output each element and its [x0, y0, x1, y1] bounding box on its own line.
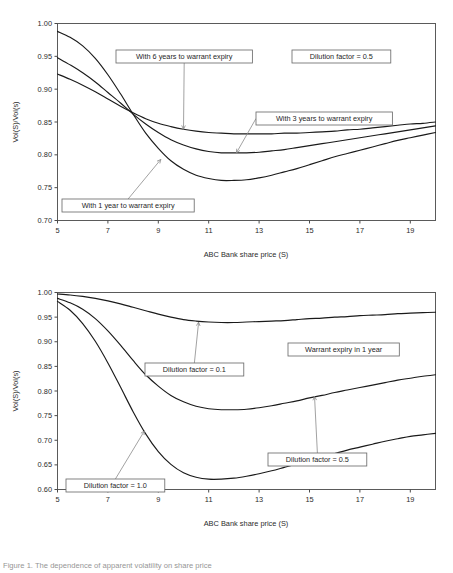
x-tick-label: 5	[55, 495, 59, 504]
series-line	[58, 294, 436, 323]
chart-bottom: 0.600.650.700.750.800.850.900.951.00 579…	[0, 284, 453, 550]
curves-bottom	[58, 294, 436, 479]
x-tick-label: 17	[356, 495, 364, 504]
annotation-box: Dilution factor = 0.5	[292, 50, 391, 63]
x-axis-ticks-top: 5791113151719	[55, 221, 414, 236]
annotations-top: With 6 years to warrant expiryDilution f…	[62, 50, 392, 212]
annotation-label: With 1 year to warrant expiry	[82, 201, 175, 210]
annotation-label: With 6 years to warrant expiry	[136, 52, 233, 61]
y-tick-label: 0.75	[38, 183, 52, 192]
y-tick-label: 1.00	[38, 19, 52, 28]
annotation-box: With 6 years to warrant expiry	[116, 50, 252, 63]
x-tick-label: 7	[106, 495, 110, 504]
annotation-label: Warrant expiry in 1 year	[305, 345, 383, 354]
y-tick-label: 0.85	[38, 118, 52, 127]
annotation-leader-line	[184, 63, 185, 129]
y-axis-ticks-top: 0.700.750.800.850.900.951.00	[38, 19, 58, 225]
y-tick-label: 0.85	[38, 362, 52, 371]
x-tick-label: 11	[205, 495, 213, 504]
x-tick-label: 13	[255, 226, 263, 235]
x-tick-label: 15	[305, 495, 313, 504]
x-tick-label: 11	[205, 226, 213, 235]
x-tick-label: 9	[156, 495, 160, 504]
y-tick-label: 0.70	[38, 436, 52, 445]
y-axis-title-bottom: Vol(S)/Vol(s)	[11, 370, 20, 411]
x-axis-title-top: ABC Bank share price (S)	[204, 250, 289, 259]
x-tick-label: 19	[406, 495, 414, 504]
annotation-label: With 3 years to warrant expiry	[276, 114, 373, 123]
figure-container: 0.700.750.800.850.900.951.00 57911131517…	[0, 0, 453, 573]
y-tick-label: 0.65	[38, 460, 52, 469]
y-axis-ticks-bottom: 0.600.650.700.750.800.850.900.951.00	[38, 288, 58, 494]
y-tick-label: 0.95	[38, 313, 52, 322]
annotation-label: Dilution factor = 0.1	[163, 365, 226, 374]
annotation-leader-line	[115, 431, 144, 479]
y-tick-label: 0.80	[38, 387, 52, 396]
y-axis-title-top: Vol(S)/Vol(s)	[11, 101, 20, 142]
annotation-box: Dilution factor = 0.1	[145, 363, 244, 376]
annotation-box: Dilution factor = 0.5	[268, 453, 367, 466]
chart-top-svg: 0.700.750.800.850.900.951.00 57911131517…	[0, 4, 453, 266]
x-tick-label: 17	[356, 226, 364, 235]
x-tick-label: 13	[255, 495, 263, 504]
x-tick-label: 19	[406, 226, 414, 235]
annotations-bottom: Dilution factor = 0.1Warrant expiry in 1…	[66, 343, 399, 492]
y-tick-label: 0.90	[38, 85, 52, 94]
chart-bottom-svg: 0.600.650.700.750.800.850.900.951.00 579…	[0, 284, 453, 550]
annotation-label: Dilution factor = 0.5	[310, 52, 373, 61]
y-tick-label: 1.00	[38, 288, 52, 297]
figure-caption: Figure 1. The dependence of apparent vol…	[3, 560, 450, 572]
x-tick-label: 15	[305, 226, 313, 235]
x-tick-label: 7	[106, 226, 110, 235]
y-tick-label: 0.60	[38, 485, 52, 494]
annotation-box: Dilution factor = 1.0	[66, 479, 165, 492]
annotation-box: Warrant expiry in 1 year	[288, 343, 399, 356]
y-tick-label: 0.90	[38, 337, 52, 346]
annotation-box: With 3 years to warrant expiry	[256, 112, 392, 125]
y-tick-label: 0.70	[38, 216, 52, 225]
annotation-leader-line	[128, 159, 161, 199]
y-tick-label: 0.95	[38, 52, 52, 61]
y-tick-label: 0.80	[38, 150, 52, 159]
annotation-leader-line	[315, 396, 318, 453]
x-tick-label: 5	[55, 226, 59, 235]
x-axis-title-bottom: ABC Bank share price (S)	[204, 519, 289, 528]
series-line	[58, 301, 436, 479]
annotation-label: Dilution factor = 0.5	[286, 455, 349, 464]
annotation-leader-line	[194, 322, 198, 363]
annotation-leader-line	[236, 119, 256, 153]
chart-top: 0.700.750.800.850.900.951.00 57911131517…	[0, 4, 453, 266]
annotation-label: Dilution factor = 1.0	[84, 481, 147, 490]
annotation-box: With 1 year to warrant expiry	[62, 199, 194, 212]
series-line	[58, 58, 436, 153]
x-tick-label: 9	[156, 226, 160, 235]
y-tick-label: 0.75	[38, 411, 52, 420]
